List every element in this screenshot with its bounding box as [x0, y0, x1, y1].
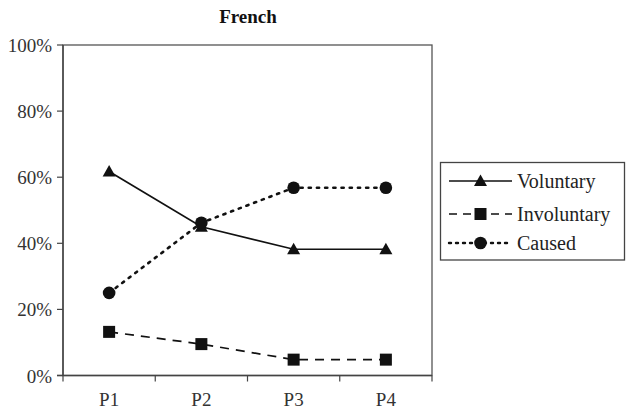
x-tick-label: P3 — [284, 389, 304, 410]
x-tick-label: P2 — [191, 389, 211, 410]
circle-icon — [474, 237, 487, 250]
series-line-involuntary — [109, 332, 386, 360]
circle-marker — [103, 287, 116, 300]
y-tick-label: 40% — [17, 233, 52, 254]
series-involuntary — [103, 326, 392, 366]
y-tick-label: 20% — [17, 299, 52, 320]
series-caused — [103, 181, 392, 299]
y-tick-label: 0% — [27, 366, 53, 387]
square-icon — [475, 208, 487, 220]
x-tick-label: P1 — [99, 389, 119, 410]
series-line-caused — [109, 188, 386, 293]
legend: VoluntaryInvoluntaryCaused — [441, 163, 625, 261]
square-marker — [380, 354, 392, 366]
y-tick-label: 60% — [17, 167, 52, 188]
x-axis: P1P2P3P4 — [57, 376, 432, 410]
series-line-voluntary — [109, 172, 386, 250]
circle-marker — [380, 181, 393, 194]
square-marker — [288, 354, 300, 366]
chart-title: French — [219, 6, 277, 27]
series-voluntary — [103, 165, 393, 254]
legend-label: Caused — [517, 232, 576, 254]
legend-label: Voluntary — [517, 170, 596, 193]
square-marker — [103, 326, 115, 338]
line-chart: French 0%20%40%60%80%100% P1P2P3P4 Volun… — [0, 0, 626, 414]
square-marker — [195, 338, 207, 350]
x-tick-label: P4 — [376, 389, 397, 410]
circle-marker — [287, 181, 300, 194]
legend-label: Involuntary — [517, 203, 610, 226]
series-layer — [103, 165, 393, 366]
y-axis: 0%20%40%60%80%100% — [8, 35, 63, 387]
y-tick-label: 100% — [8, 35, 53, 56]
circle-marker — [195, 217, 208, 230]
y-tick-label: 80% — [17, 101, 52, 122]
plot-border — [63, 45, 432, 376]
triangle-marker — [103, 165, 116, 177]
plot-area — [63, 45, 432, 376]
